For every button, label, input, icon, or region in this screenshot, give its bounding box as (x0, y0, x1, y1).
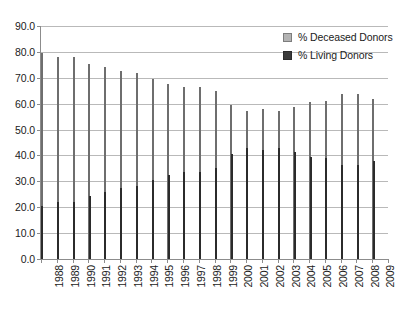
x-axis-tick (73, 259, 74, 263)
x-axis-label: 1996 (179, 265, 191, 288)
x-axis-label: 2008 (369, 265, 381, 288)
bar-living-donors (41, 206, 43, 259)
bar-living-donors (89, 196, 91, 259)
bar-living-donors (136, 186, 138, 259)
x-axis-label: 2007 (353, 265, 365, 288)
bar-living-donors (262, 150, 264, 259)
bar-group (104, 26, 120, 259)
bar-chart: 0.010.020.030.040.050.060.070.080.090.0 … (0, 0, 410, 312)
bar-living-donors (231, 154, 233, 259)
x-axis-label: 1988 (53, 265, 65, 288)
bar-living-donors (120, 188, 122, 259)
x-axis-tick (183, 259, 184, 263)
x-axis-tick (325, 259, 326, 263)
x-axis-tick (151, 259, 152, 263)
legend: % Deceased Donors% Living Donors (283, 31, 393, 61)
x-axis-label: 1989 (69, 265, 81, 288)
x-axis-tick (388, 259, 389, 263)
y-axis-label: 10.0 (15, 227, 35, 239)
bar-living-donors (373, 161, 375, 259)
x-axis-tick (41, 259, 42, 263)
x-axis-label: 1993 (132, 265, 144, 288)
y-axis-label: 80.0 (15, 46, 35, 58)
x-axis-tick (372, 259, 373, 263)
bar-group (41, 26, 57, 259)
legend-item: % Living Donors (283, 49, 393, 61)
legend-label: % Living Donors (298, 49, 373, 61)
bar-group (230, 26, 246, 259)
y-axis-label: 70.0 (15, 72, 35, 84)
x-axis-tick (278, 259, 279, 263)
x-axis-label: 1991 (100, 265, 112, 288)
x-axis-label: 2004 (305, 265, 317, 288)
bar-living-donors (310, 157, 312, 259)
x-axis-label: 2001 (258, 265, 270, 288)
bar-living-donors (57, 202, 59, 259)
bar-group (88, 26, 104, 259)
bar-living-donors (325, 158, 327, 259)
bar-group (199, 26, 215, 259)
y-axis-label: 30.0 (15, 175, 35, 187)
x-axis-tick (120, 259, 121, 263)
bar-group (136, 26, 152, 259)
bar-living-donors (168, 175, 170, 259)
x-axis-label: 1998 (211, 265, 223, 288)
x-axis-label: 1994 (148, 265, 160, 288)
bar-living-donors (357, 165, 359, 259)
bar-group (151, 26, 167, 259)
x-axis-label: 2009 (384, 265, 396, 288)
x-axis-tick (246, 259, 247, 263)
x-axis-label: 1997 (195, 265, 207, 288)
x-axis-label: 2002 (274, 265, 286, 288)
bar-living-donors (294, 152, 296, 259)
x-axis-tick (215, 259, 216, 263)
bar-group (262, 26, 278, 259)
x-axis-label: 2000 (242, 265, 254, 288)
bar-living-donors (73, 202, 75, 259)
y-axis-label: 60.0 (15, 98, 35, 110)
x-axis-label: 1995 (163, 265, 175, 288)
legend-label: % Deceased Donors (298, 31, 393, 43)
x-axis-label: 1992 (116, 265, 128, 288)
bar-living-donors (215, 168, 217, 259)
y-axis-label: 50.0 (15, 124, 35, 136)
bar-group (167, 26, 183, 259)
legend-swatch-living-icon (283, 51, 292, 60)
x-axis-label: 2006 (337, 265, 349, 288)
y-axis-label: 90.0 (15, 20, 35, 32)
x-axis-label: 1990 (85, 265, 97, 288)
x-axis-tick (356, 259, 357, 263)
legend-item: % Deceased Donors (283, 31, 393, 43)
y-axis-label: 0.0 (21, 253, 35, 265)
x-axis-tick (104, 259, 105, 263)
bar-living-donors (104, 192, 106, 259)
x-axis-label: 2003 (290, 265, 302, 288)
x-axis-label: 1999 (227, 265, 239, 288)
bar-group (57, 26, 73, 259)
bar-living-donors (199, 172, 201, 259)
x-axis-tick (309, 259, 310, 263)
x-axis-tick (199, 259, 200, 263)
x-axis-tick (262, 259, 263, 263)
bar-living-donors (152, 180, 154, 259)
bar-living-donors (246, 148, 248, 259)
bar-living-donors (278, 148, 280, 259)
bar-living-donors (341, 165, 343, 259)
x-axis-label: 2005 (321, 265, 333, 288)
x-axis-tick (57, 259, 58, 263)
x-axis-tick (341, 259, 342, 263)
bar-group (246, 26, 262, 259)
x-axis-tick (167, 259, 168, 263)
bar-group (215, 26, 231, 259)
x-axis-tick (136, 259, 137, 263)
x-axis-tick (88, 259, 89, 263)
x-axis-tick (230, 259, 231, 263)
bar-group (120, 26, 136, 259)
plot-area: 0.010.020.030.040.050.060.070.080.090.0 … (40, 26, 388, 260)
y-axis-label: 20.0 (15, 201, 35, 213)
bar-group (73, 26, 89, 259)
bar-group (183, 26, 199, 259)
y-axis-label: 40.0 (15, 149, 35, 161)
legend-swatch-deceased-icon (283, 33, 292, 42)
bar-living-donors (183, 172, 185, 259)
